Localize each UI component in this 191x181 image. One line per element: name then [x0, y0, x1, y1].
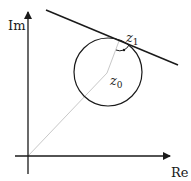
z0-to-z1-radius [107, 41, 119, 73]
tangent-line [46, 10, 178, 65]
imaginary-axis-label: Im [8, 18, 25, 33]
right-angle-arc [116, 45, 129, 51]
diagram-svg: Im Re z1 z0 [0, 0, 191, 181]
origin-to-z0-line [28, 73, 107, 156]
z0-label: z0 [109, 73, 123, 90]
complex-plane-diagram: Im Re z1 z0 [0, 0, 191, 181]
right-angle-dot [123, 49, 125, 51]
z1-label: z1 [125, 30, 139, 47]
circle [74, 38, 142, 106]
real-axis-label: Re [171, 165, 189, 180]
